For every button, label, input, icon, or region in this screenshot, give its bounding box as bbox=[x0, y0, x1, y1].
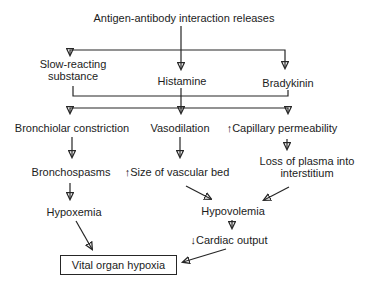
node-vital-organ-hypoxia: Vital organ hypoxia bbox=[60, 255, 177, 275]
node-bradykinin: Bradykinin bbox=[258, 77, 318, 89]
node-slow-reacting-substance: Slow-reacting substance bbox=[30, 58, 116, 82]
node-capillary-permeability: ↑Capillary permeability bbox=[219, 122, 345, 134]
arrow-cardiac-output-to-vital-hypoxia bbox=[183, 249, 226, 262]
flowchart-anaphylaxis: Antigen-antibody interaction releases Sl… bbox=[0, 0, 368, 288]
node-bronchiolar-constriction: Bronchiolar constriction bbox=[8, 122, 136, 134]
arrow-vascular-bed-to-hypovolemia bbox=[186, 186, 211, 199]
node-size-of-vascular-bed: ↑Size of vascular bed bbox=[121, 166, 233, 178]
node-histamine: Histamine bbox=[152, 75, 212, 87]
node-bronchospasms: Bronchospasms bbox=[28, 166, 114, 178]
node-hypovolemia: Hypovolemia bbox=[198, 205, 268, 217]
node-cardiac-output: ↓Cardiac output bbox=[183, 234, 275, 246]
node-title: Antigen-antibody interaction releases bbox=[86, 12, 282, 24]
arrow-plasma-loss-to-hypovolemia bbox=[264, 187, 289, 200]
node-vasodilation: Vasodilation bbox=[147, 122, 213, 134]
arrow-hypoxemia-to-vital-hypoxia bbox=[76, 221, 92, 249]
node-hypoxemia: Hypoxemia bbox=[44, 206, 104, 218]
rail-effects-distributor bbox=[70, 108, 288, 113]
node-loss-of-plasma: Loss of plasma into interstitium bbox=[252, 155, 362, 179]
